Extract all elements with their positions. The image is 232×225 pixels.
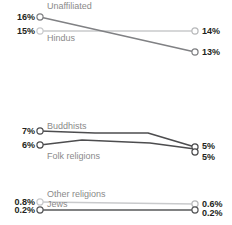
value-right-buddhists: 5% [202,141,215,151]
slope-chart: 16% 15% 7% 6% 0.8% 0.2% 14% 13% 5% 5% 0.… [0,0,232,225]
marker-buddhists-start [37,128,43,134]
series-line-buddhists [40,131,195,147]
value-right-unaffiliated: 13% [202,47,220,57]
marker-folk-religions-end [192,149,198,155]
series-label-jews: Jews [47,199,68,209]
marker-other-religions-start [37,199,43,205]
value-right-folk-religions: 5% [202,152,215,162]
series-label-hindus: Hindus [47,33,75,43]
marker-hindus-end [192,28,198,34]
value-right-jews: 0.2% [202,208,223,218]
value-left-buddhists: 7% [0,126,35,136]
series-label-unaffiliated: Unaffiliated [47,1,92,11]
series-label-buddhists: Buddhists [47,121,87,131]
value-left-folk-religions: 6% [0,140,35,150]
value-right-hindus: 14% [202,26,220,36]
marker-jews-end [192,207,198,213]
series-label-folk-religions: Folk religions [47,151,100,161]
marker-unaffiliated-start [37,14,43,20]
marker-other-religions-end [192,201,198,207]
marker-unaffiliated-end [192,49,198,55]
value-left-hindus: 15% [0,26,35,36]
marker-jews-start [37,207,43,213]
series-line-folk-religions [40,140,195,149]
series-label-other-religions: Other religions [47,189,106,199]
marker-hindus-start [37,28,43,34]
value-left-unaffiliated: 16% [0,12,35,22]
value-left-jews: 0.2% [0,205,35,215]
marker-folk-religions-start [37,142,43,148]
